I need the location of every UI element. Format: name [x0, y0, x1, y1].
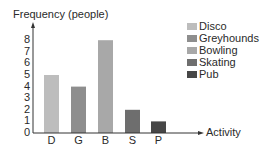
y-tick-label: 8 [20, 33, 30, 45]
legend-label: Pub [199, 68, 219, 80]
legend-item: Disco [187, 20, 259, 32]
y-tick-label: 5 [20, 68, 30, 80]
x-tick-label: B [98, 134, 114, 146]
x-tick-label: G [71, 134, 87, 146]
y-tick-label: 2 [20, 103, 30, 115]
legend-label: Bowling [199, 44, 238, 56]
bar-P [151, 121, 166, 133]
legend-item: Greyhounds [187, 32, 259, 44]
y-tick-label: 1 [20, 114, 30, 126]
x-tick-label: D [44, 134, 60, 146]
legend-item: Bowling [187, 44, 259, 56]
y-axis-label: Frequency (people) [13, 8, 108, 20]
legend-swatch-icon [187, 23, 197, 30]
legend-swatch-icon [187, 59, 197, 66]
bar-D [44, 75, 59, 133]
x-tick-label: P [151, 134, 167, 146]
y-tick-label: 0 [20, 126, 30, 138]
legend-item: Pub [187, 68, 259, 80]
bars-group [44, 40, 166, 133]
legend-item: Skating [187, 56, 259, 68]
x-tick-label: S [125, 134, 141, 146]
bar-G [71, 87, 86, 133]
legend-swatch-icon [187, 71, 197, 78]
x-axis-arrow-icon [198, 131, 204, 135]
x-axis-label: Activity [206, 126, 241, 138]
bar-B [98, 40, 113, 133]
legend-label: Greyhounds [199, 32, 259, 44]
y-tick-label: 3 [20, 91, 30, 103]
y-tick-label: 7 [20, 45, 30, 57]
legend-swatch-icon [187, 47, 197, 54]
bar-chart: Frequency (people) Activity 012345678 DG… [0, 0, 270, 150]
legend-label: Skating [199, 56, 236, 68]
bar-S [125, 110, 140, 133]
y-tick-label: 4 [20, 80, 30, 92]
legend: DiscoGreyhoundsBowlingSkatingPub [187, 20, 259, 80]
legend-swatch-icon [187, 35, 197, 42]
y-axis-arrow-icon [31, 22, 35, 28]
y-tick-label: 6 [20, 56, 30, 68]
legend-label: Disco [199, 20, 227, 32]
